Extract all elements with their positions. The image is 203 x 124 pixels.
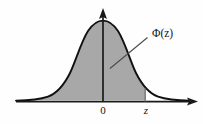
shaded-area-phi-z bbox=[18, 21, 145, 101]
figure-canvas: Φ(z) 0 z bbox=[0, 0, 203, 124]
normal-distribution-figure: Φ(z) 0 z bbox=[0, 0, 203, 124]
phi-z-annotation-label: Φ(z) bbox=[152, 27, 173, 40]
x-tick-label-z: z bbox=[143, 104, 149, 116]
x-tick-label-zero: 0 bbox=[100, 104, 106, 116]
